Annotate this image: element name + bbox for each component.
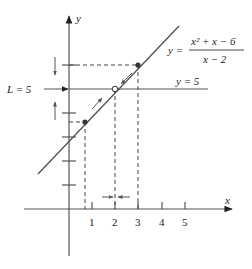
y-axis-label: y [75,12,81,24]
function-graph [38,26,179,174]
y-axis: y [62,12,81,256]
dashed-guides [69,65,138,209]
equation-numerator: x² + x − 6 [190,35,236,47]
approach-arrow-up-right-icon [92,98,102,109]
limit-diagram: y x 1 2 3 4 5 L = 5 y = 5 [0,0,252,269]
limit-label: L = 5 [6,83,32,95]
right-point [135,62,140,67]
x-tick-label-2: 2 [112,216,118,228]
left-point [82,119,87,124]
hole-point [112,86,118,92]
x-axis: x 1 2 3 4 5 [24,194,232,228]
equation-lhs: y = [167,44,183,56]
limit-line: L = 5 y = 5 [6,75,208,95]
equation-denominator: x − 2 [202,53,227,65]
x-tick-label-4: 4 [159,216,165,228]
x-tick-label-5: 5 [182,216,188,228]
x-tick-label-3: 3 [135,216,141,228]
x-tick-label-1: 1 [89,216,95,228]
limit-line-label: y = 5 [175,75,200,87]
function-equation: y = x² + x − 6 x − 2 [167,35,244,65]
approach-arrow-down-left-icon [121,73,132,84]
x-axis-label: x [224,194,230,206]
